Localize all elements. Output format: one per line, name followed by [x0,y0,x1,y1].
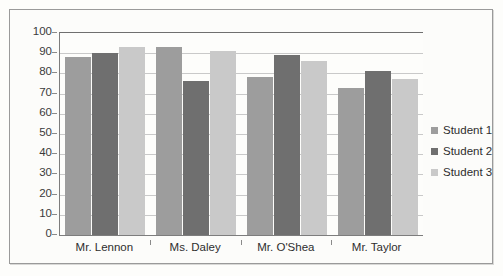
bar [301,61,327,235]
y-axis-tick-mark [52,214,57,215]
x-axis-tick-label: Mr. Lennon [76,242,134,254]
bar [365,71,391,235]
legend-item: Student 3 [431,162,493,183]
chart-legend: Student 1Student 2Student 3 [431,120,493,183]
legend-swatch-icon [431,127,438,134]
y-axis-tick-label: 60 [22,107,52,119]
bar [119,47,145,235]
y-axis-tick-label: 50 [22,127,52,139]
y-axis-tick-label: 80 [22,67,52,79]
x-axis: Mr. LennonMs. DaleyMr. O'SheaMr. Taylor [59,240,423,260]
y-axis-tick-label: 30 [22,168,52,180]
y-axis: 0102030405060708090100 [20,32,52,236]
x-axis-tick-mark [331,240,332,245]
x-axis-tick-label: Ms. Daley [170,242,221,254]
bar [210,51,236,235]
chart-screenshot: 0102030405060708090100 Mr. LennonMs. Dal… [0,0,503,276]
y-axis-tick-mark [52,93,57,94]
y-axis-tick-label: 0 [22,228,52,240]
y-axis-tick-mark [52,133,57,134]
y-axis-tick-mark [52,194,57,195]
legend-item-label: Student 3 [443,167,492,179]
y-axis-tick-label: 100 [22,26,52,38]
y-axis-tick-mark [52,234,57,235]
legend-item-label: Student 1 [443,125,492,137]
x-axis-tick-label: Mr. Taylor [352,242,402,254]
bar [338,88,364,235]
bar [183,81,209,235]
y-axis-tick-label: 40 [22,147,52,159]
y-axis-tick-mark [52,32,57,33]
bar [392,79,418,235]
legend-item: Student 1 [431,120,493,141]
legend-item: Student 2 [431,141,493,162]
bar [156,47,182,235]
y-axis-tick-label: 20 [22,188,52,200]
bar [274,55,300,235]
plot-area [59,32,423,236]
legend-item-label: Student 2 [443,146,492,158]
y-axis-tick-label: 90 [22,46,52,58]
y-axis-tick-mark [52,72,57,73]
legend-swatch-icon [431,169,438,176]
y-axis-tick-mark [52,153,57,154]
y-axis-tick-mark [52,113,57,114]
bar [247,77,273,235]
bar [92,53,118,235]
x-axis-tick-label: Mr. O'Shea [257,242,314,254]
chart-frame: 0102030405060708090100 Mr. LennonMs. Dal… [9,9,493,264]
legend-swatch-icon [431,148,438,155]
y-axis-tick-label: 70 [22,87,52,99]
y-axis-tick-mark [52,173,57,174]
x-axis-tick-mark [150,240,151,245]
bar [65,57,91,235]
x-axis-tick-mark [241,240,242,245]
y-axis-tick-mark [52,52,57,53]
y-axis-tick-label: 10 [22,208,52,220]
